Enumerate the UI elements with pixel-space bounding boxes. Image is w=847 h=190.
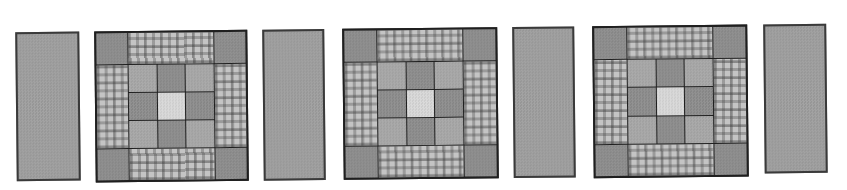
border-print-strip-top xyxy=(627,27,713,59)
corner-patch-top-right xyxy=(714,27,746,58)
inner-patch-1-3 xyxy=(186,64,214,91)
corner-patch-top-right xyxy=(214,32,246,63)
border-print-strip-right xyxy=(464,61,497,145)
inner-patch-3-3 xyxy=(436,118,464,145)
border-print-strip-right xyxy=(714,59,747,143)
quilt-row xyxy=(0,0,847,190)
quilt-block xyxy=(592,25,749,179)
inner-patch-3-2 xyxy=(657,116,685,144)
corner-patch-bottom-left xyxy=(97,149,129,180)
inner-patch-1-2 xyxy=(406,62,434,89)
quilt-block xyxy=(342,27,499,180)
quilt-row-figure xyxy=(0,0,847,190)
border-print-strip-left xyxy=(345,62,378,146)
inner-patch-3-2 xyxy=(158,121,186,148)
inner-patch-1-1 xyxy=(627,60,655,88)
corner-patch-bottom-right xyxy=(215,148,247,179)
corner-patch-bottom-left xyxy=(595,145,627,176)
inner-patch-1-1 xyxy=(377,62,405,89)
sashing-strip xyxy=(763,24,828,174)
border-print-strip-left xyxy=(97,65,129,149)
corner-patch-top-left xyxy=(96,33,128,64)
center-patch xyxy=(158,92,186,119)
inner-patch-2-1 xyxy=(628,88,656,116)
border-print-strip-top xyxy=(377,30,463,62)
border-print-strip-top xyxy=(129,32,214,64)
corner-patch-bottom-right xyxy=(715,144,747,175)
center-patch xyxy=(406,90,434,117)
border-print-strip-bottom xyxy=(378,146,464,178)
corner-patch-top-right xyxy=(464,29,496,60)
corner-patch-bottom-left xyxy=(345,147,377,178)
corner-patch-top-left xyxy=(344,30,376,61)
inner-patch-1-2 xyxy=(656,59,684,87)
inner-patch-2-1 xyxy=(378,90,406,117)
sashing-strip xyxy=(15,32,81,182)
inner-patch-2-3 xyxy=(186,92,214,119)
border-print-strip-right xyxy=(214,64,246,148)
inner-patch-1-3 xyxy=(435,61,463,88)
inner-patch-2-3 xyxy=(685,87,713,115)
inner-patch-2-3 xyxy=(435,90,463,117)
inner-patch-3-1 xyxy=(378,118,406,145)
inner-patch-2-1 xyxy=(129,93,157,120)
border-print-strip-left xyxy=(595,60,628,144)
inner-patch-3-3 xyxy=(686,116,714,144)
inner-patch-3-3 xyxy=(186,120,214,147)
inner-patch-1-3 xyxy=(685,59,713,87)
inner-patch-3-2 xyxy=(407,118,435,145)
inner-patch-3-1 xyxy=(628,116,656,144)
inner-patch-1-2 xyxy=(157,64,185,91)
corner-patch-top-left xyxy=(594,28,626,59)
quilt-block xyxy=(94,30,249,183)
border-print-strip-bottom xyxy=(130,148,215,180)
inner-patch-1-1 xyxy=(129,65,157,92)
inner-patch-3-1 xyxy=(129,121,157,148)
center-patch xyxy=(656,88,684,116)
border-print-strip-bottom xyxy=(628,144,714,176)
sashing-strip xyxy=(262,29,326,181)
corner-patch-bottom-right xyxy=(465,145,497,176)
sashing-strip xyxy=(512,26,576,178)
